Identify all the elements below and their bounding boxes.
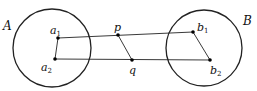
segment-b1-b2 [193,32,210,60]
point-label-p: p [114,22,121,33]
point-label-b1: b1 [197,22,209,35]
segment-a1-a2 [55,38,58,59]
circle-label-b: B [243,15,252,27]
segment-a1-b1 [58,32,193,38]
point-label-q: q [129,65,136,76]
point-b1 [191,30,195,34]
point-label-b2: b2 [210,65,222,78]
segment-p-q [118,35,132,60]
point-b2 [208,58,212,62]
circle-a [13,9,91,87]
point-label-a1: a1 [50,25,61,38]
diagram: A B a1 a2 p q b1 b2 [0,0,257,91]
point-q [130,58,134,62]
point-a2 [53,57,57,61]
point-label-a2: a2 [41,62,52,75]
circle-label-a: A [3,20,12,32]
